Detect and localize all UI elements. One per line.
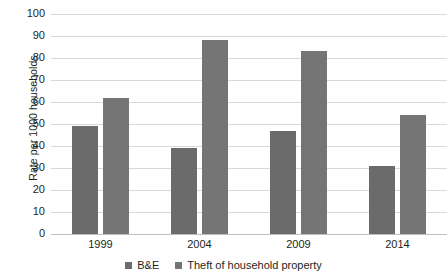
y-axis-tick-label: 80 [0,52,45,63]
bar-chart: Rate per 1000 households 010203040506070… [0,0,447,275]
bar [202,40,228,234]
legend-swatch-icon [175,262,182,269]
legend-item[interactable]: B&E [125,259,159,271]
legend-item[interactable]: Theft of household property [175,259,322,271]
y-axis-tick-label: 20 [0,184,45,195]
y-axis-tick-label: 50 [0,118,45,129]
x-axis-tick-label: 1999 [51,238,150,251]
bar [301,51,327,234]
bar-group [270,14,327,234]
bar [270,131,296,234]
x-axis-tick-label: 2014 [348,238,447,251]
chart-legend: B&ETheft of household property [0,259,447,271]
bar-group [72,14,129,234]
y-axis-tick-label: 90 [0,30,45,41]
y-axis-tick-label: 0 [0,228,45,239]
y-axis-tick-label: 30 [0,162,45,173]
x-axis-tick-label: 2004 [150,238,249,251]
bar [400,115,426,234]
x-axis-tick-label: 2009 [249,238,348,251]
bar [369,166,395,234]
legend-label: Theft of household property [187,259,322,271]
axis-baseline [51,234,447,235]
legend-swatch-icon [125,262,132,269]
plot-area [51,14,447,234]
legend-label: B&E [137,259,159,271]
y-axis-tick-label: 70 [0,74,45,85]
bar [103,98,129,234]
bar [72,126,98,234]
x-axis-tick-labels: 1999200420092014 [51,238,447,254]
y-axis-tick-labels: 0102030405060708090100 [0,0,45,275]
y-axis-tick-label: 10 [0,206,45,217]
bar [171,148,197,234]
y-axis-tick-label: 100 [0,8,45,19]
y-axis-tick-label: 40 [0,140,45,151]
bar-group [171,14,228,234]
bar-group [369,14,426,234]
y-axis-tick-label: 60 [0,96,45,107]
